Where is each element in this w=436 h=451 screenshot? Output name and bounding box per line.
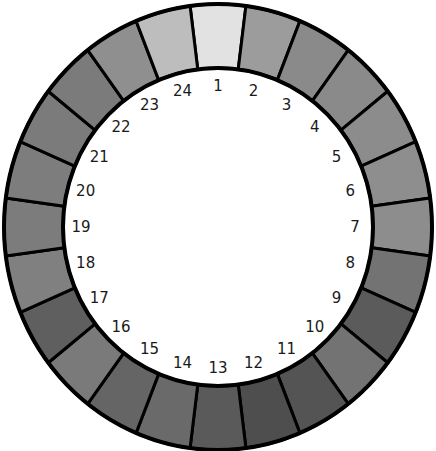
segment-label-23: 23 [140,96,159,114]
segment-label-2: 2 [249,82,259,100]
segment-label-10: 10 [305,318,324,336]
segment-label-13: 13 [208,359,227,377]
segment-label-4: 4 [310,118,320,136]
ring-segment-7 [372,198,432,256]
segment-label-22: 22 [112,118,131,136]
segment-label-18: 18 [76,254,95,272]
segment-label-21: 21 [90,148,109,166]
segment-label-11: 11 [277,340,296,358]
segment-label-15: 15 [140,340,159,358]
ring-segments [4,4,432,450]
segment-label-5: 5 [332,148,342,166]
ring-segment-13 [190,385,246,450]
segment-label-20: 20 [76,182,95,200]
ring-inner-edge [63,68,373,386]
segment-label-24: 24 [173,82,192,100]
ring-segment-19 [4,198,64,256]
segment-label-1: 1 [213,77,223,95]
segment-label-14: 14 [173,354,192,372]
segment-label-6: 6 [346,182,356,200]
segment-labels: 123456789101112131415161718192021222324 [71,77,359,377]
segment-label-16: 16 [112,318,131,336]
segment-label-9: 9 [332,289,342,307]
segment-label-19: 19 [71,218,90,236]
segmented-ring-diagram: 123456789101112131415161718192021222324 [0,0,436,451]
segment-label-17: 17 [90,289,109,307]
ring-segment-1 [190,4,246,69]
segment-label-3: 3 [282,96,292,114]
segment-label-7: 7 [350,218,360,236]
segment-label-12: 12 [244,354,263,372]
segment-label-8: 8 [346,254,356,272]
